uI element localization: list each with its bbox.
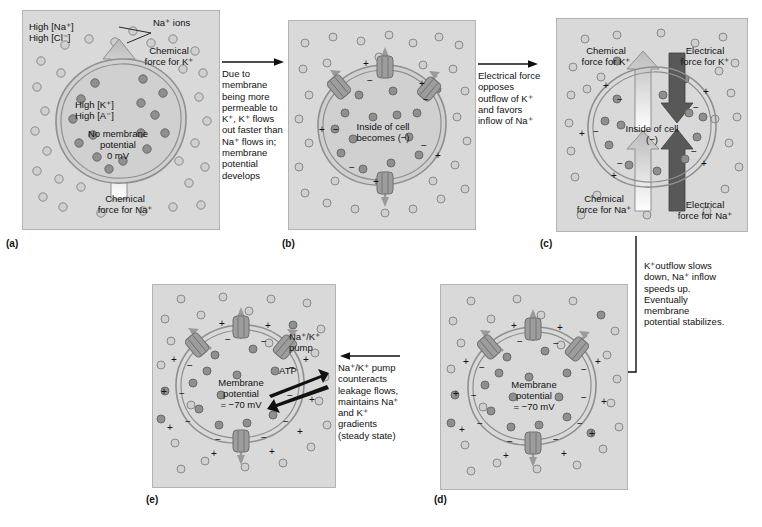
charge-sign-outside-c-5: + [611,171,617,181]
charge-sign-outside-c-1: + [603,81,609,91]
charge-sign-inside-d-10: − [553,435,559,445]
connector-text-d-to-e: Na⁺/K⁺ pump counteracts leakage flows, m… [338,362,422,441]
charge-sign-outside-b-4: + [435,151,441,161]
charge-sign-outside-b-3: + [319,125,325,135]
charge-sign-outside-d-5: + [453,389,459,399]
panel-letter-b: (b) [282,238,295,249]
charge-sign-outside-d-1: + [511,321,517,331]
charge-sign-inside-d-7: − [477,419,483,429]
charge-sign-outside-d-8: + [589,429,595,439]
charge-sign-inside-d-8: − [577,419,583,429]
charge-sign-outside-e-5: + [161,387,167,397]
charge-sign-inside-e-10: − [261,433,267,443]
charge-sign-inside-b-2: − [423,95,429,105]
panel-a: High [Na⁺] High [Cl⁻] Na⁺ ions Chemical … [22,10,220,230]
charge-sign-outside-d-4: + [595,357,601,367]
charge-sign-inside-c-3: − [593,127,599,137]
label-electrical-force-k-c: Electrical force for K⁺ [665,45,745,67]
charge-sign-outside-b-2: + [419,79,425,89]
charge-sign-outside-e-8: + [297,427,303,437]
panel-c: + + + + + − − − − − Chemical force for K… [556,18,748,232]
charge-sign-outside-b-1: + [363,59,369,69]
charge-sign-inside-d-4: − [581,365,587,375]
panel-letter-a: (a) [6,238,18,249]
connector-text-c-to-d: K⁺outflow slows down, Na⁺ inflow speeds … [644,260,752,328]
label-inside-a-anion-a: High [A⁻] [75,110,114,121]
label-membrane-potential-d: Membrane potential = −70 mV [477,379,591,413]
label-chemical-force-k-c: Chemical force for K⁺ [565,45,647,67]
charge-sign-outside-e-2: + [265,321,271,331]
charge-sign-outside-e-9: + [211,449,217,459]
charge-sign-inside-e-3: − [187,361,193,371]
charge-sign-outside-d-7: + [459,425,465,435]
label-membrane-potential-a: No membrane potential 0 mV [59,128,177,162]
charge-sign-inside-e-8: − [283,417,289,427]
label-sodium-potassium-pump-e: Na⁺/K⁺ pump [289,331,320,353]
charge-sign-outside-d-9: + [503,451,509,461]
charge-sign-inside-c-5: − [617,159,623,169]
charge-sign-outside-e-3: + [171,355,177,365]
label-membrane-potential-e: Membrane potential = −70 mV [185,377,297,411]
label-outside-cl-a: High [Cl⁻] [29,32,70,43]
label-chemical-force-na-c: Chemical force for Na⁺ [561,193,647,215]
charge-sign-outside-e-1: + [219,319,225,329]
charge-sign-inside-e-7: − [185,417,191,427]
charge-sign-outside-e-6: + [309,395,315,405]
charge-sign-inside-b-5: − [349,163,355,173]
label-na-ions-callout-a: Na⁺ ions [153,17,190,28]
charge-sign-inside-d-9: − [507,437,513,447]
charge-sign-inside-e-5: − [179,389,185,399]
charge-sign-inside-c-2: − [693,103,699,113]
charge-sign-inside-d-5: − [471,391,477,401]
charge-sign-inside-d-1: − [517,337,523,347]
label-inside-of-cell-b: Inside of cell becomes (−) [325,121,441,143]
panel-letter-d: (d) [434,494,447,505]
charge-sign-outside-c-2: + [703,87,709,97]
label-atp-e: ATP [279,365,297,376]
charge-sign-outside-c-3: + [579,129,585,139]
panel-e: + + + + + + + + + + − − − − − − − − − − … [152,284,336,488]
charge-sign-inside-e-9: − [215,435,221,445]
connector-text-b-to-c: Electrical force opposes outflow of K⁺ a… [478,70,554,126]
charge-sign-inside-e-2: − [261,337,267,347]
charge-sign-outside-d-3: + [463,357,469,367]
charge-sign-inside-b-1: − [367,76,373,86]
connector-arrow-b-to-c [478,58,540,70]
label-chemical-force-k-a: Chemical force for K⁺ [127,45,211,67]
charge-sign-inside-d-2: − [553,339,559,349]
label-inside-k-a: High [K⁺] [75,99,114,110]
connector-text-a-to-b: Due to membrane being more permeable to … [222,68,288,181]
charge-sign-inside-c-4: − [691,147,697,157]
panel-d: + + + + + + + + + + − − − − − − − − − − … [440,284,628,490]
charge-sign-outside-e-4: + [303,355,309,365]
charge-sign-outside-e-10: + [269,447,275,457]
label-chemical-force-na-a: Chemical force for Na⁺ [79,193,171,215]
panel-letter-e: (e) [146,494,158,505]
charge-sign-outside-d-10: + [561,449,567,459]
label-outside-na-a: High [Na⁺] [29,21,74,32]
panel-b: + + + + + − − − − − Inside of cell becom… [288,20,476,230]
label-electrical-force-na-c: Electrical force for Na⁺ [663,199,747,221]
charge-sign-outside-c-4: + [701,159,707,169]
charge-sign-inside-e-1: − [225,335,231,345]
charge-sign-inside-c-1: − [617,95,623,105]
charge-sign-outside-b-5: + [373,177,379,187]
charge-sign-inside-d-3: − [479,363,485,373]
label-inside-of-cell-c: Inside of cell (−) [599,123,705,145]
connector-arrow-d-to-e [338,350,400,362]
connector-arrow-a-to-b [222,56,286,68]
charge-sign-outside-d-2: + [557,323,563,333]
charge-sign-outside-d-6: + [601,397,607,407]
charge-sign-outside-e-7: + [167,423,173,433]
